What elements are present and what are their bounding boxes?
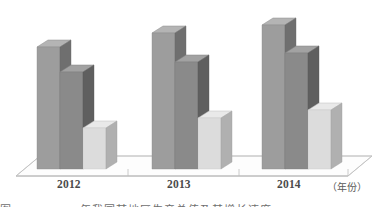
bar-group-2013: [152, 26, 232, 169]
bar-front-face: [152, 33, 175, 169]
axis-tick-label-2014: 2014: [277, 178, 301, 190]
bar-front-face: [285, 53, 308, 169]
axis-unit-label: （年份）: [327, 179, 367, 194]
axis-tick-label-2013: 2013: [167, 178, 191, 190]
cropped-caption-strip: 图 2012—2014年我国某地区生产总值及其增长速度: [0, 201, 381, 207]
bar-2012-series-3: [83, 121, 117, 169]
bar-side-face: [106, 121, 117, 169]
bar-front-face: [83, 128, 106, 169]
bar-front-face: [198, 118, 221, 169]
bar-group-2012: [37, 40, 117, 169]
bar-group-2014: [262, 18, 342, 169]
chart-container: 2012 2013 2014 （年份） 图 2012—2014年我国某地区生产总…: [0, 0, 381, 207]
bar-front-face: [308, 110, 331, 169]
cropped-caption-text: 图 2012—2014年我国某地区生产总值及其增长速度: [0, 201, 381, 207]
bar-side-face: [221, 111, 232, 169]
bar-2013-series-3: [198, 111, 232, 169]
bar-front-face: [175, 62, 198, 169]
bar-chart-3d: [0, 0, 381, 207]
axis-tick-label-2012: 2012: [57, 178, 81, 190]
bar-2014-series-3: [308, 103, 342, 169]
bar-front-face: [60, 72, 83, 169]
bar-side-face: [331, 103, 342, 169]
bar-front-face: [37, 47, 60, 169]
bar-front-face: [262, 25, 285, 169]
